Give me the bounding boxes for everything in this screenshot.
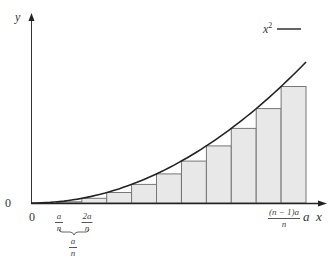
riemann-rectangle: [206, 146, 231, 203]
y-axis-arrow-icon: [29, 13, 35, 21]
tick-label-a-over-n: an: [55, 212, 63, 233]
legend-label: x2: [263, 22, 272, 35]
riemann-rectangle: [132, 184, 157, 203]
tick-label-2a-over-n: 2an: [82, 212, 93, 233]
x-origin-label: 0: [29, 211, 35, 223]
tick-label-n-minus-1-a-over-n: (n − 1)an: [268, 208, 300, 229]
x-end-label-a: a: [303, 210, 310, 223]
y-axis-label: y: [15, 11, 20, 23]
riemann-rectangle: [157, 174, 182, 203]
riemann-rectangle: [256, 109, 281, 203]
x-axis-arrow-icon: [318, 201, 327, 207]
riemann-rectangle: [82, 198, 107, 203]
riemann-rectangle: [281, 87, 306, 204]
riemann-rectangle: [231, 128, 256, 203]
riemann-rectangles: [57, 87, 306, 204]
riemann-rectangle: [182, 161, 207, 203]
x-axis-label: x: [316, 210, 322, 223]
riemann-rectangle: [107, 193, 132, 204]
y-origin-label: 0: [5, 197, 11, 209]
brace-label-a-over-n: an: [69, 237, 77, 257]
